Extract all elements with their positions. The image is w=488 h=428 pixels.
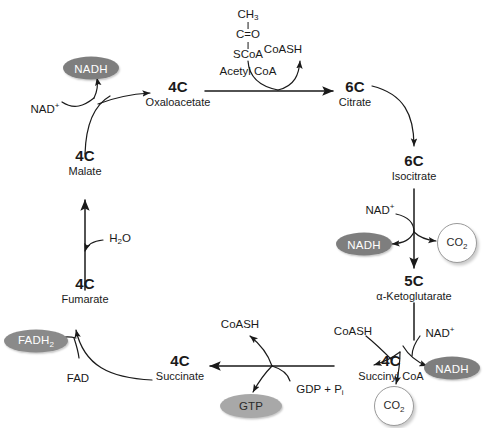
succinate-carbon-count: 4C (156, 352, 204, 369)
nad-plus-malate-label: NAD+ (31, 101, 60, 115)
citrate-carbon-count: 6C (339, 78, 371, 95)
co2-ring-succinyl: CO2 (374, 386, 414, 426)
structure-line-carbonyl: C=O (220, 29, 277, 42)
gdp-pi-label: GDP + Pi (296, 383, 343, 397)
succinyl-coa-carbon-count: 4C (358, 352, 423, 369)
acetyl-coa-label: Acetyl CoA (220, 66, 277, 78)
curve-gtp-out (253, 366, 272, 392)
node-succinate: 4C Succinate (156, 352, 204, 383)
bond-1 (220, 22, 277, 29)
node-fumarate: 4C Fumarate (61, 275, 108, 306)
curve-fad-in (74, 338, 79, 358)
fad-label: FAD (67, 372, 89, 384)
coash-bottom-left-label: CoASH (221, 318, 259, 330)
curve-water-in (85, 240, 103, 251)
coash-bottom-right-label: CoASH (334, 325, 372, 337)
nadh-badge-isocitrate: NADH (336, 233, 392, 256)
coash-top-label: CoASH (264, 43, 302, 55)
curve-nad-in-malate (62, 98, 94, 106)
succinyl-coa-label: Succinyl CoA (358, 370, 423, 383)
arrow-malate-to-oxaloacetate (98, 93, 150, 104)
arrow-citrate-to-isocitrate (372, 86, 414, 146)
node-citrate: 6C Citrate (339, 78, 371, 109)
structure-line-ch3: CH3 (220, 9, 277, 22)
curve-nadh-out-isocitrate (392, 232, 414, 244)
ketoglutarate-carbon-count: 5C (376, 272, 451, 289)
malate-label: Malate (68, 165, 101, 178)
curve-coash-out-top (278, 61, 300, 90)
oxaloacetate-label: Oxaloacetate (146, 96, 211, 109)
citrate-label: Citrate (339, 96, 371, 109)
ketoglutarate-label: α-Ketoglutarate (376, 290, 451, 303)
gtp-badge: GTP (220, 394, 282, 418)
node-oxaloacetate: 4C Oxaloacetate (146, 78, 211, 109)
curve-gdp-in (272, 366, 290, 381)
curve-nadh-out-malate (94, 78, 98, 98)
krebs-cycle-diagram: CH3 C=O SCoA Acetyl CoA 4C Oxaloacetate … (0, 0, 488, 428)
co2-ring-isocitrate: CO2 (437, 223, 477, 263)
fadh2-badge: FADH2 (4, 330, 68, 353)
node-ketoglutarate: 5C α-Ketoglutarate (376, 272, 451, 303)
fumarate-label: Fumarate (61, 293, 108, 306)
oxaloacetate-carbon-count: 4C (146, 78, 211, 95)
water-label: H2O (109, 232, 131, 246)
nadh-badge-malate: NADH (63, 57, 119, 80)
nadh-badge-succinyl: NADH (424, 357, 480, 380)
nad-plus-isocitrate-label: NAD+ (366, 202, 395, 216)
line-malate-up (85, 96, 110, 154)
node-malate: 4C Malate (68, 147, 101, 178)
curve-co2-out-isocitrate (414, 232, 436, 241)
succinate-label: Succinate (156, 370, 204, 383)
curve-nad-in-isocitrate (396, 214, 414, 232)
nad-plus-succinyl-label: NAD+ (426, 325, 455, 339)
isocitrate-carbon-count: 6C (392, 152, 437, 169)
isocitrate-label: Isocitrate (392, 170, 437, 183)
node-succinyl-coa: 4C Succinyl CoA (358, 352, 423, 383)
fumarate-carbon-count: 4C (61, 275, 108, 292)
curve-coash-out-bottom (250, 336, 272, 366)
node-isocitrate: 6C Isocitrate (392, 152, 437, 183)
malate-carbon-count: 4C (68, 147, 101, 164)
